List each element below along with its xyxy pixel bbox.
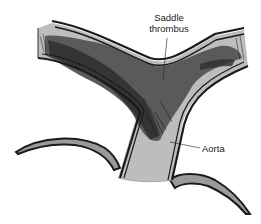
aorta-vessel bbox=[38, 21, 248, 182]
aortic-bifurcation-drawing bbox=[0, 0, 261, 224]
saddle-thrombus-label: Saddle thrombus bbox=[145, 12, 193, 34]
left-lower-artery bbox=[16, 139, 120, 170]
saddle-label-line1: Saddle bbox=[145, 12, 193, 23]
aorta-label: Aorta bbox=[202, 143, 225, 154]
saddle-label-line2: thrombus bbox=[145, 23, 193, 34]
right-lower-artery bbox=[170, 174, 250, 214]
illustration: Saddle thrombus Aorta bbox=[0, 0, 261, 224]
